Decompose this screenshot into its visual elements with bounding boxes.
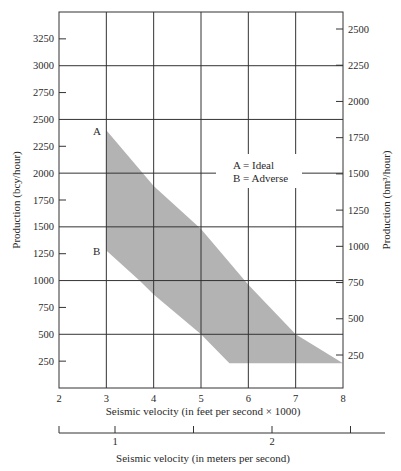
y-tick-label: 750	[38, 302, 54, 313]
y-tick-label: 3250	[33, 33, 54, 44]
y-tick-label: 3000	[33, 60, 54, 71]
y-tick-label: 500	[38, 329, 54, 340]
y-axis-right: 2505007501000125015001750200022502500	[336, 24, 369, 361]
y-tick-label: 1000	[33, 275, 54, 286]
y2-tick-label: 500	[348, 313, 364, 324]
legend-entry-adverse: B = Adverse	[233, 172, 288, 184]
y2-tick-label: 1750	[348, 132, 369, 143]
y2-tick-label: 2500	[348, 24, 369, 35]
y-axis-title-left: Production (bcy/hour)	[10, 151, 23, 249]
y2-tick-label: 2000	[348, 96, 369, 107]
y-tick-label: 2000	[33, 168, 54, 179]
x2-tick-label: 2	[269, 436, 274, 447]
y-tick-label: 1750	[33, 195, 54, 206]
production-vs-seismic-velocity-chart: 2505007501000125015001750200022502500275…	[0, 0, 401, 471]
y2-tick-label: 1500	[348, 168, 369, 179]
y-tick-label: 2250	[33, 141, 54, 152]
x-axis-title-meters: Seismic velocity (in meters per second)	[116, 452, 290, 465]
y2-tick-label: 2250	[348, 60, 369, 71]
x-tick-label: 3	[104, 393, 109, 404]
point-label-a: A	[93, 125, 101, 137]
x-tick-label: 4	[151, 393, 157, 404]
y2-tick-label: 1000	[348, 241, 369, 252]
x-axis-meters: 12	[59, 426, 385, 447]
legend: A = Ideal B = Adverse	[216, 154, 302, 188]
point-label-b: B	[93, 245, 100, 257]
y-tick-label: 1500	[33, 221, 54, 232]
x-tick-label: 2	[56, 393, 61, 404]
x-tick-label: 6	[246, 393, 251, 404]
y-axis-left: 2505007501000125015001750200022502500275…	[33, 33, 66, 366]
y2-tick-label: 250	[348, 350, 364, 361]
gridlines	[59, 12, 343, 388]
x-tick-label: 7	[293, 393, 298, 404]
y-tick-label: 2500	[33, 114, 54, 125]
y2-tick-label: 1250	[348, 205, 369, 216]
y-tick-label: 1250	[33, 248, 54, 259]
y-tick-label: 250	[38, 356, 54, 367]
x-tick-label: 8	[340, 393, 345, 404]
x2-tick-label: 1	[112, 436, 117, 447]
x-tick-label: 5	[198, 393, 203, 404]
y2-tick-label: 750	[348, 277, 364, 288]
x-axis-feet: 2345678	[56, 393, 345, 404]
legend-entry-ideal: A = Ideal	[233, 159, 274, 171]
x-axis-title-feet: Seismic velocity (in feet per second × 1…	[106, 405, 301, 418]
y-tick-label: 2750	[33, 87, 54, 98]
y-axis-title-right: Production (bm³/hour)	[380, 150, 393, 249]
